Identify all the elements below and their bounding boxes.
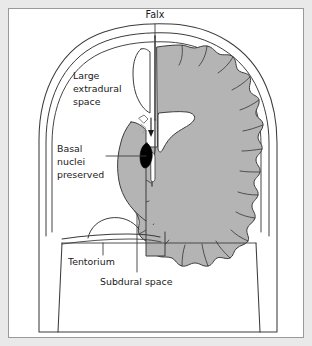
label-basal-line1: Basal (57, 143, 82, 154)
figure-container: Falx Large extradural space Basal nuclei… (0, 0, 312, 346)
anatomy-diagram: Falx Large extradural space Basal nuclei… (0, 0, 312, 346)
label-extradural-line1: Large (73, 70, 100, 81)
label-subdural-space: Subdural space (100, 276, 173, 287)
label-extradural-line2: extradural (73, 83, 122, 94)
label-basal-line3: preserved (57, 169, 104, 180)
label-basal-line2: nuclei (57, 156, 85, 167)
label-falx: Falx (146, 9, 165, 20)
label-extradural-line3: space (73, 96, 101, 107)
label-tentorium: Tentorium (67, 256, 115, 267)
